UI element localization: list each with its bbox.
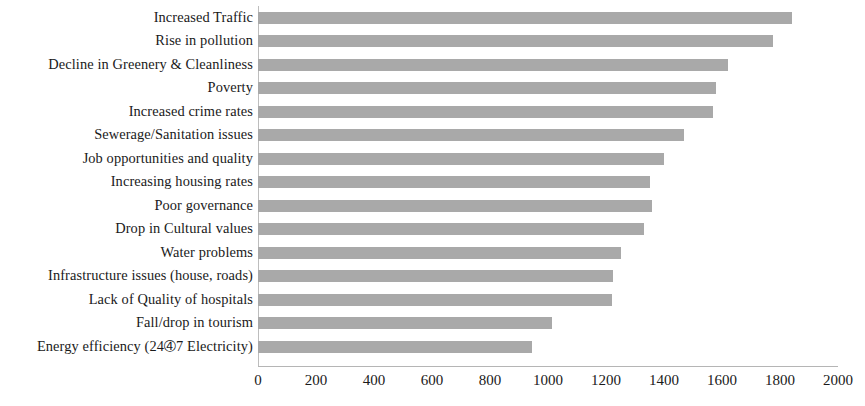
bar — [258, 106, 713, 118]
bar-track — [258, 77, 716, 101]
bar-row: Increased Traffic — [0, 6, 865, 30]
bar — [258, 153, 664, 165]
category-label: Lack of Quality of hospitals — [89, 292, 253, 307]
x-tick-label: 1600 — [707, 372, 737, 389]
bar-track — [258, 53, 728, 77]
bar — [258, 247, 621, 259]
category-label: Increased crime rates — [129, 104, 253, 119]
bar-track — [258, 312, 552, 336]
bar-row: Drop in Cultural values — [0, 218, 865, 242]
bar — [258, 176, 650, 188]
bar-row: Poverty — [0, 77, 865, 101]
bar — [258, 294, 612, 306]
bar-track — [258, 194, 652, 218]
category-label: Increasing housing rates — [111, 175, 253, 190]
bar — [258, 200, 652, 212]
bar-row: Fall/drop in tourism — [0, 312, 865, 336]
bar-track — [258, 124, 684, 148]
bar-track — [258, 6, 792, 30]
bar-row: Energy efficiency (24➃7 Electricity) — [0, 335, 865, 359]
bar — [258, 12, 792, 24]
bar-row: Sewerage/Sanitation issues — [0, 124, 865, 148]
bar — [258, 223, 644, 235]
x-tick-label: 1400 — [649, 372, 679, 389]
bar-row: Water problems — [0, 241, 865, 265]
bar-track — [258, 218, 644, 242]
bar — [258, 35, 773, 47]
bar-row: Infrastructure issues (house, roads) — [0, 265, 865, 289]
category-label: Decline in Greenery & Cleanliness — [48, 57, 253, 72]
x-tick-label: 800 — [479, 372, 502, 389]
bar-row: Decline in Greenery & Cleanliness — [0, 53, 865, 77]
bar — [258, 59, 728, 71]
bar — [258, 317, 552, 329]
bar-track — [258, 171, 650, 195]
bar-row: Increasing housing rates — [0, 171, 865, 195]
bar — [258, 270, 613, 282]
bar-row: Lack of Quality of hospitals — [0, 288, 865, 312]
bar-track — [258, 288, 612, 312]
bar-row: Rise in pollution — [0, 30, 865, 54]
x-tick-label: 1200 — [591, 372, 621, 389]
bar-rows: Increased TrafficRise in pollutionDeclin… — [0, 6, 865, 359]
bar — [258, 82, 716, 94]
category-label: Drop in Cultural values — [115, 222, 253, 237]
bar-row: Poor governance — [0, 194, 865, 218]
plot-area: Increased TrafficRise in pollutionDeclin… — [0, 0, 865, 370]
category-label: Poor governance — [154, 198, 253, 213]
category-label: Increased Traffic — [154, 10, 253, 25]
x-tick-label: 400 — [363, 372, 386, 389]
x-tick-label: 0 — [254, 372, 262, 389]
bar-track — [258, 241, 621, 265]
bar — [258, 129, 684, 141]
bar — [258, 341, 532, 353]
category-label: Fall/drop in tourism — [136, 316, 253, 331]
category-label: Infrastructure issues (house, roads) — [48, 269, 253, 284]
bar-track — [258, 265, 613, 289]
category-label: Job opportunities and quality — [83, 151, 253, 166]
category-axis-line — [258, 366, 838, 367]
x-tick-label: 200 — [305, 372, 328, 389]
x-tick-label: 1800 — [765, 372, 795, 389]
bar-track — [258, 30, 773, 54]
x-tick-label: 2000 — [823, 372, 853, 389]
x-tick-label: 1000 — [533, 372, 563, 389]
bar-row: Job opportunities and quality — [0, 147, 865, 171]
bar-track — [258, 147, 664, 171]
bar-track — [258, 335, 532, 359]
category-label: Poverty — [208, 81, 253, 96]
bar-track — [258, 100, 713, 124]
category-label: Sewerage/Sanitation issues — [94, 128, 253, 143]
x-tick-label: 600 — [421, 372, 444, 389]
horizontal-bar-chart: Increased TrafficRise in pollutionDeclin… — [0, 0, 865, 406]
bar-row: Increased crime rates — [0, 100, 865, 124]
x-axis-tick-labels: 0200400600800100012001400160018002000 — [0, 372, 865, 402]
category-label: Rise in pollution — [155, 34, 253, 49]
category-label: Energy efficiency (24➃7 Electricity) — [37, 339, 253, 354]
category-label: Water problems — [160, 245, 253, 260]
